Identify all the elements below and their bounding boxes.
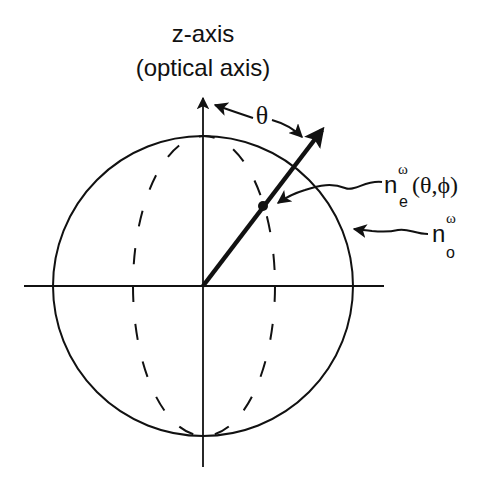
no-subscript: o	[446, 244, 455, 261]
ne-superscript: ω	[398, 161, 408, 177]
no-pointer-arrow	[354, 229, 428, 234]
no-base: n	[432, 220, 445, 247]
theta-angle-arrow	[215, 105, 253, 118]
ne-pointer-arrow	[278, 182, 382, 203]
ne-base: n	[384, 171, 397, 198]
no-label: n ω o	[432, 210, 456, 261]
z-axis-title: z-axis	[172, 20, 235, 47]
intersection-dot	[258, 201, 268, 211]
optical-axis-title: (optical axis)	[136, 54, 271, 81]
no-superscript: ω	[446, 210, 456, 226]
ne-label: n ω e (θ,ϕ)	[384, 161, 458, 210]
theta-label: θ	[256, 101, 268, 130]
ne-args: (θ,ϕ)	[412, 172, 458, 198]
ne-subscript: e	[399, 193, 408, 210]
index-ellipsoid-diagram: z-axis (optical axis) θ n ω e (θ,ϕ) n ω …	[0, 0, 491, 481]
theta-angle-arrow-right	[272, 120, 302, 137]
